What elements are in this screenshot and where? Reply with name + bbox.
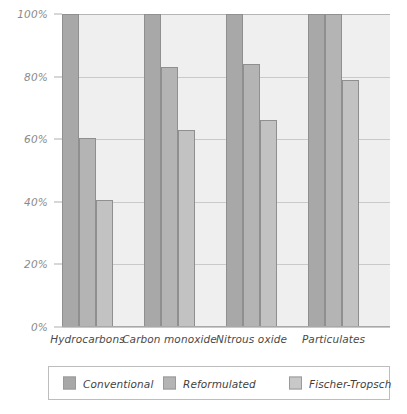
chart-legend: ConventionalReformulatedFischer-Tropsch [48,366,390,400]
legend-swatch-icon [289,377,302,390]
legend-label: Reformulated [183,377,256,389]
y-axis-tick-mark [54,139,62,140]
bar-carbon-monoxide-conventional [144,14,161,327]
y-axis-tick-label: 60% [24,133,48,145]
y-axis-tick-label: 0% [31,321,48,333]
legend-item-fischer-tropsch[interactable]: Fischer-Tropsch [289,377,392,390]
y-axis-tick-label: 100% [17,8,48,20]
bar-particulates-reformulated [325,14,342,327]
x-axis-label-nitrous-oxide: Nitrous oxide [216,333,287,345]
bar-hydrocarbons-fischer-tropsch [96,200,113,327]
y-axis-tick-label: 40% [24,196,48,208]
bar-nitrous-oxide-reformulated [243,64,260,327]
legend-label: Fischer-Tropsch [309,377,392,389]
y-axis-tick-mark [54,76,62,77]
bar-carbon-monoxide-fischer-tropsch [178,130,195,327]
plot-area [62,14,390,327]
legend-item-reformulated[interactable]: Reformulated [163,377,256,390]
y-axis-tick-label: 80% [24,71,48,83]
bar-particulates-fischer-tropsch [342,80,359,327]
gridline-0 [62,327,390,328]
legend-swatch-icon [163,377,176,390]
y-axis-tick-mark [54,327,62,328]
legend-item-conventional[interactable]: Conventional [63,377,153,390]
bar-hydrocarbons-reformulated [79,138,96,327]
x-axis-label-hydrocarbons: Hydrocarbons [50,333,124,345]
legend-swatch-icon [63,377,76,390]
legend-label: Conventional [83,377,153,389]
bar-hydrocarbons-conventional [62,14,79,327]
bar-chart: 0%20%40%60%80%100% HydrocarbonsCarbon mo… [0,0,407,414]
y-axis-tick-mark [54,201,62,202]
bar-nitrous-oxide-conventional [226,14,243,327]
bar-nitrous-oxide-fischer-tropsch [260,120,277,327]
bar-particulates-conventional [308,14,325,327]
x-axis-label-particulates: Particulates [302,333,365,345]
y-axis-tick-mark [54,264,62,265]
y-axis-tick-label: 20% [24,258,48,270]
bar-carbon-monoxide-reformulated [161,67,178,327]
x-axis-label-carbon-monoxide: Carbon monoxide [122,333,217,345]
y-axis: 0%20%40%60%80%100% [0,0,62,341]
y-axis-tick-mark [54,14,62,15]
